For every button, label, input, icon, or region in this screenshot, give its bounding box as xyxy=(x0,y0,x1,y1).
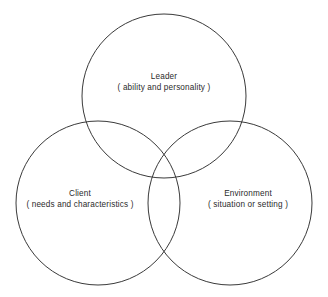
venn-circles-group xyxy=(0,0,328,297)
label-client-subtitle: ( needs and characteristics ) xyxy=(26,199,133,210)
venn-diagram: Leader ( ability and personality ) Clien… xyxy=(0,0,328,297)
label-client-title: Client xyxy=(26,188,133,199)
label-environment: Environment ( situation or setting ) xyxy=(208,188,288,210)
label-client: Client ( needs and characteristics ) xyxy=(26,188,133,210)
label-environment-subtitle: ( situation or setting ) xyxy=(208,199,288,210)
label-leader-title: Leader xyxy=(118,71,211,82)
circle-leader xyxy=(82,14,246,178)
label-leader: Leader ( ability and personality ) xyxy=(118,71,211,93)
label-environment-title: Environment xyxy=(208,188,288,199)
label-leader-subtitle: ( ability and personality ) xyxy=(118,82,211,93)
